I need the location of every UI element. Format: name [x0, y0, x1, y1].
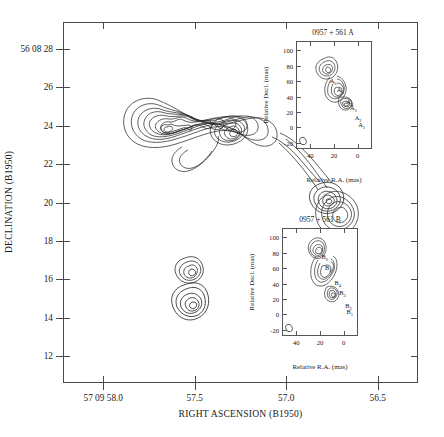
inset-a-title: 0957 + 561 A — [312, 28, 354, 37]
component-label-a3: A3 — [350, 104, 357, 113]
x-tick-label-1: 57.5 — [187, 393, 203, 403]
y-tick-inner — [64, 318, 70, 319]
inset-y-tick-label-6: -20 — [256, 326, 279, 333]
y-tick-right — [411, 318, 417, 319]
inset-b-y-axis-title: Relative Decl. (mas) — [248, 254, 255, 311]
y-tick-right — [411, 203, 417, 204]
x-axis-title: RIGHT ASCENSION (B1950) — [63, 408, 418, 419]
y-tick-inner — [64, 164, 70, 165]
component-label-b6: B6 — [321, 253, 328, 262]
y-tick-label-6: 16 — [0, 274, 53, 284]
y-tick-inner — [64, 279, 70, 280]
x-tick-top — [195, 23, 196, 29]
inset-x-tick-top — [334, 42, 335, 46]
y-tick-mark — [56, 203, 63, 204]
inset-y-tick-label-2: 60 — [256, 265, 279, 272]
inset-x-tick-label-2: 0 — [342, 339, 345, 346]
y-axis-title: DECLINATION (B1950) — [3, 151, 14, 253]
inset-y-tick-label-1: 80 — [256, 249, 279, 256]
inset-x-tick-top — [296, 229, 297, 233]
inset-y-tick-label-5: 0 — [256, 311, 279, 318]
x-tick-label-0: 57 09 58.0 — [83, 393, 123, 403]
inset-y-tick-label-4: 20 — [270, 108, 293, 115]
inset-x-tick — [344, 331, 345, 335]
inset-y-tick-label-2: 60 — [270, 78, 293, 85]
radio-contour-figure: 56 08 28262422201816141257 09 58.057.557… — [0, 0, 444, 437]
y-tick-label-1: 26 — [0, 82, 53, 92]
y-tick-right — [411, 49, 417, 50]
inset-x-tick — [296, 331, 297, 335]
inset-a-contour-canvas — [297, 42, 371, 148]
component-label-a5: A5 — [337, 86, 344, 95]
x-tick-inner — [195, 376, 196, 382]
y-tick-inner — [64, 126, 70, 127]
inset-x-tick — [310, 144, 311, 148]
inset-y-tick-label-0: 100 — [270, 47, 293, 54]
x-tick-mark — [286, 383, 287, 390]
inset-x-tick-top — [344, 229, 345, 233]
y-tick-inner — [64, 87, 70, 88]
inset-y-tick — [297, 127, 301, 128]
y-tick-mark — [56, 126, 63, 127]
x-tick-mark — [195, 383, 196, 390]
inset-x-tick-top — [320, 229, 321, 233]
inset-y-tick — [283, 314, 287, 315]
inset-x-tick-label-2: 0 — [356, 152, 359, 159]
inset-x-tick-top — [310, 42, 311, 46]
inset-b-contour-canvas — [283, 229, 357, 335]
inset-y-tick-label-3: 40 — [270, 93, 293, 100]
x-tick-label-2: 57.0 — [278, 393, 294, 403]
component-label-b5: B5 — [325, 264, 332, 273]
inset-x-tick — [334, 144, 335, 148]
x-tick-mark — [103, 383, 104, 390]
y-tick-right — [411, 279, 417, 280]
y-tick-inner — [64, 49, 70, 50]
inset-y-tick — [283, 330, 287, 331]
y-tick-mark — [56, 279, 63, 280]
inset-y-tick-label-0: 100 — [256, 234, 279, 241]
component-label-b4: B4 — [335, 279, 342, 288]
inset-y-tick — [283, 253, 287, 254]
x-tick-mark — [378, 383, 379, 390]
component-label-b3: B3 — [339, 289, 346, 298]
x-tick-top — [103, 23, 104, 29]
inset-y-tick — [283, 237, 287, 238]
inset-y-tick-label-4: 20 — [256, 295, 279, 302]
y-tick-inner — [64, 203, 70, 204]
y-tick-mark — [56, 164, 63, 165]
y-tick-inner — [64, 356, 70, 357]
y-tick-right — [411, 356, 417, 357]
inset-b-frame — [282, 228, 358, 336]
inset-panel-a: 0957 + 561 A — [240, 28, 400, 193]
inset-y-tick — [297, 112, 301, 113]
inset-y-tick — [283, 299, 287, 300]
y-tick-inner — [64, 241, 70, 242]
inset-panel-b: 0957 + 561 B — [222, 215, 390, 380]
y-tick-mark — [56, 241, 63, 242]
inset-x-tick-label-0: 40 — [293, 339, 300, 346]
y-tick-label-0: 56 08 28 — [0, 44, 53, 54]
contour-group-image-B — [172, 283, 209, 320]
inset-y-tick — [297, 97, 301, 98]
inset-y-tick-label-6: -20 — [270, 139, 293, 146]
x-tick-inner — [103, 376, 104, 382]
inset-y-tick — [297, 66, 301, 67]
inset-x-tick-label-1: 20 — [331, 152, 338, 159]
y-tick-right — [411, 126, 417, 127]
inset-y-tick-label-1: 80 — [270, 62, 293, 69]
y-tick-right — [411, 87, 417, 88]
inset-y-tick-label-5: 0 — [270, 124, 293, 131]
component-label-a6: A6 — [330, 77, 337, 86]
y-tick-mark — [56, 49, 63, 50]
inset-x-tick — [358, 144, 359, 148]
y-tick-right — [411, 241, 417, 242]
y-tick-mark — [56, 318, 63, 319]
y-tick-label-7: 14 — [0, 313, 53, 323]
inset-b-title: 0957 + 561 B — [299, 215, 341, 224]
y-tick-mark — [56, 356, 63, 357]
inset-a-y-axis-title: Relative Decl. (mas) — [262, 67, 269, 124]
inset-y-tick-label-3: 40 — [256, 280, 279, 287]
y-tick-label-8: 12 — [0, 351, 53, 361]
y-tick-label-2: 24 — [0, 121, 53, 131]
inset-y-tick — [297, 143, 301, 144]
